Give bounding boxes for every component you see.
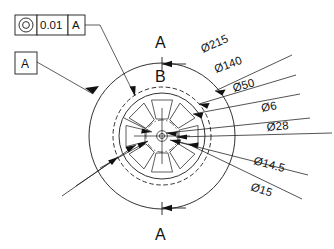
section-label-top-inner: B <box>155 68 166 85</box>
dim-label-d14-5: Ø14.5 <box>252 154 286 174</box>
section-arrowhead-bottom <box>162 205 172 211</box>
dim-label-d6: Ø6 <box>260 99 278 114</box>
datum-triangle <box>85 86 99 94</box>
arrowhead-d15 <box>188 143 199 149</box>
leader-mirror-3 <box>62 157 118 196</box>
section-label-top: A <box>155 34 166 51</box>
fcf-arrowhead <box>130 86 136 96</box>
section-arrowhead-top <box>162 61 172 67</box>
dim-label-d50: Ø50 <box>231 76 256 94</box>
engineering-drawing: Ø215 Ø140 Ø50 Ø6 Ø28 Ø14.5 Ø15 A B A 0.0… <box>0 0 334 249</box>
fcf-tolerance-value: 0.01 <box>40 19 62 31</box>
dim-label-d15: Ø15 <box>249 180 274 198</box>
datum-feature-symbol[interactable]: A <box>15 52 99 94</box>
leader-lines <box>62 55 332 199</box>
leader-mirror-4 <box>124 118 152 132</box>
dim-label-d215: Ø215 <box>199 32 230 55</box>
leader-d15 <box>188 144 302 199</box>
arrowhead-mirror-3 <box>108 157 118 165</box>
dim-label-d28: Ø28 <box>266 119 289 133</box>
fcf-datum-letter: A <box>72 19 80 31</box>
datum-leader-line <box>37 62 93 94</box>
leader-d28 <box>176 133 332 137</box>
section-label-bottom: A <box>155 226 166 243</box>
dim-label-d140: Ø140 <box>213 54 244 75</box>
dimension-labels: Ø215 Ø140 Ø50 Ø6 Ø28 Ø14.5 Ø15 <box>199 32 289 198</box>
drawing-canvas: Ø215 Ø140 Ø50 Ø6 Ø28 Ø14.5 Ø15 A B A 0.0… <box>0 0 334 249</box>
datum-letter: A <box>21 57 29 71</box>
